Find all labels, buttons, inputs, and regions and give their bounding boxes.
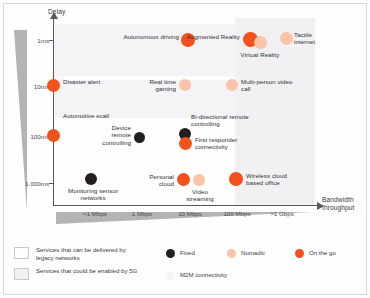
legend-label-m2m: M2M connectivity: [180, 271, 260, 279]
label-video-streaming: Video streaming: [181, 188, 219, 203]
point-video-streaming[interactable]: [193, 174, 205, 186]
legend-dot-m2m: [166, 271, 175, 280]
label-monitoring-sensor-networks: Monitoring sensor networks: [63, 187, 123, 202]
chart-legend: Services that can be delivered by legacy…: [14, 246, 356, 290]
y-tick-1ms: [49, 40, 54, 41]
legend-label-on-the-go: On the go: [309, 249, 355, 257]
x-tick-label-1mbps: 1 Mbps: [119, 210, 165, 217]
legend-label-fixed: Fixed: [180, 249, 220, 257]
point-first-responder-connectivity[interactable]: [179, 137, 192, 150]
point-real-time-gaming[interactable]: [179, 79, 191, 91]
legend-dot-nomadic: [227, 249, 236, 258]
label-autonomous-driving: Autonomous driving: [113, 33, 179, 40]
label-augmented-reality: Augmented Reality: [181, 33, 240, 40]
x-tick-label-10mbps: 10 Mbps: [167, 210, 213, 217]
x-axis-title: Bandwidth throughput: [322, 196, 366, 211]
label-bidirectional-remote-controlling: Bi-directional remote controlling: [191, 113, 269, 128]
legend-label-legacy: Services that can be delivered by legacy…: [36, 246, 142, 261]
point-tactile-internet[interactable]: [280, 32, 293, 45]
x-tick-label-gt1gbps: >1 Gbps: [259, 210, 305, 217]
y-tick-label-10ms: 10ms: [9, 83, 49, 90]
y-axis-line: [53, 18, 54, 206]
label-virtual-reality: Virtual Reality: [238, 51, 282, 58]
legend-dot-fixed: [166, 249, 175, 258]
y-tick-1000ms: [49, 183, 54, 184]
legend-swatch-5g: [14, 268, 29, 280]
point-automotive-ecall[interactable]: [47, 129, 60, 142]
point-personal-cloud[interactable]: [177, 173, 190, 186]
legend-dot-on-the-go: [295, 249, 304, 258]
label-disaster-alert: Disaster alert: [63, 78, 103, 85]
x-axis-line: [53, 205, 318, 206]
point-wireless-cloud-based-office[interactable]: [229, 172, 243, 186]
label-real-time-gaming: Real time gaming: [129, 78, 176, 93]
point-disaster-alert[interactable]: [47, 79, 60, 92]
label-device-remote-controlling: Device remote controlling: [91, 124, 131, 146]
point-virtual-reality[interactable]: [254, 36, 267, 49]
label-first-responder-connectivity: First responder connectivity: [195, 136, 257, 151]
y-tick-label-1ms: 1ms: [9, 37, 49, 44]
label-personal-cloud: Personal cloud: [137, 173, 174, 188]
label-multi-person-video-call: Multi-person video call: [241, 78, 293, 93]
plot-area: 1ms 10ms 100ms 1.000ms <1 Mbps 1 Mbps 10…: [53, 18, 315, 206]
x-tick-label-lt1mbps: <1 Mbps: [72, 210, 118, 217]
point-multi-person-video-call[interactable]: [226, 79, 238, 91]
chart-page: Delay Bandwidth throughput 1ms 10ms 100m…: [0, 0, 370, 298]
point-monitoring-sensor-networks[interactable]: [85, 173, 97, 185]
x-axis-arrow-icon: [317, 202, 324, 210]
label-wireless-cloud-based-office: Wireless cloud based office: [246, 172, 302, 187]
y-axis-arrow-icon: [50, 12, 58, 19]
y-tick-label-100ms: 100ms: [9, 133, 49, 140]
point-device-remote-controlling[interactable]: [134, 132, 145, 143]
label-tactile-internet: Tactile internet: [294, 31, 330, 46]
legend-label-nomadic: Nomadic: [241, 249, 287, 257]
y-tick-label-1000ms: 1.000ms: [9, 180, 49, 187]
x-tick-label-100mbps: 100 Mbps: [214, 210, 260, 217]
label-automotive-ecall: Automotive ecall: [63, 112, 113, 119]
legend-label-5g: Services that could be enabled by 5G: [36, 267, 142, 275]
legend-swatch-legacy: [14, 247, 29, 259]
